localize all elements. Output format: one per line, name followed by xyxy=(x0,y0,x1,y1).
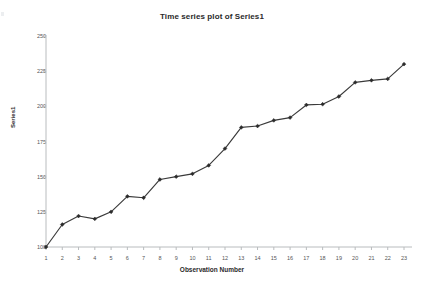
data-point-marker xyxy=(272,119,276,123)
data-point-marker xyxy=(93,217,97,221)
data-point-marker xyxy=(174,175,178,179)
plot-area xyxy=(0,0,424,281)
data-point-marker xyxy=(321,102,325,106)
data-line xyxy=(46,64,404,247)
time-series-chart: Time series plot of Series1 Series1 2502… xyxy=(0,0,424,281)
x-axis-label: Observation Number xyxy=(0,266,424,273)
data-point-marker xyxy=(256,124,260,128)
data-point-marker xyxy=(370,78,374,82)
